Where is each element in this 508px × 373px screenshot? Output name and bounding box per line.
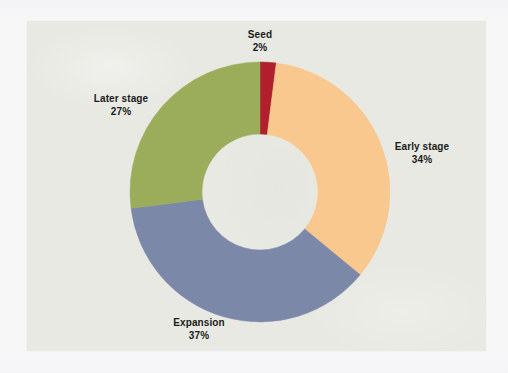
donut-slice-early-stage: [267, 63, 390, 275]
donut-slice-later-stage: [130, 62, 260, 208]
slice-label-seed-value: 2%: [212, 41, 308, 54]
slice-label-seed: Seed 2%: [212, 28, 308, 54]
slice-label-early-stage-name: Early stage: [395, 141, 449, 152]
slice-label-later-stage: Later stage 27%: [66, 92, 176, 118]
slice-label-expansion-name: Expansion: [173, 317, 224, 328]
chart-figure: Seed 2% Early stage 34% Expansion 37% La…: [0, 0, 508, 373]
slice-label-later-stage-name: Later stage: [94, 93, 148, 104]
slice-label-early-stage-value: 34%: [372, 153, 472, 166]
slice-label-seed-name: Seed: [248, 29, 272, 40]
slice-label-expansion-value: 37%: [140, 329, 258, 342]
slice-label-later-stage-value: 27%: [66, 105, 176, 118]
slice-label-expansion: Expansion 37%: [140, 316, 258, 342]
slice-label-early-stage: Early stage 34%: [372, 140, 472, 166]
